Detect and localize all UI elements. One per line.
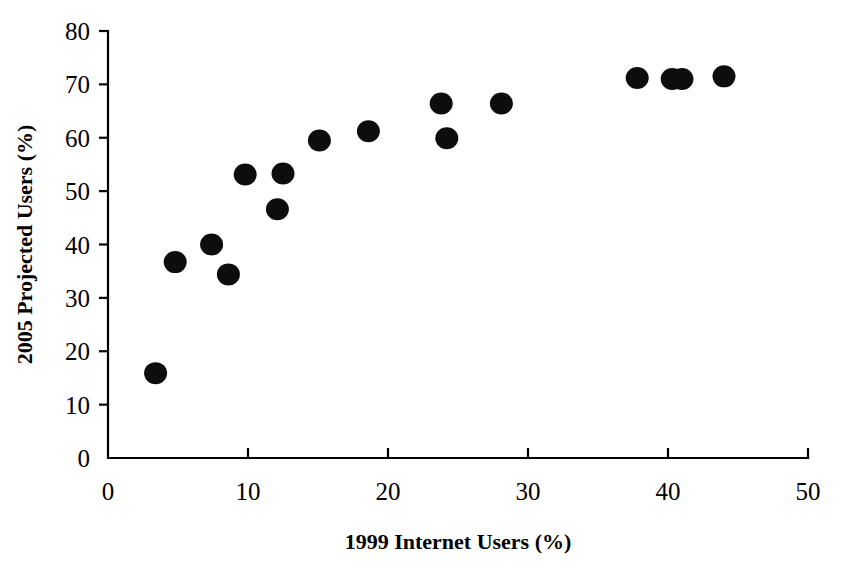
scatter-chart: 01020304050607080010203040501999 Interne… <box>0 0 853 570</box>
data-point <box>713 65 736 87</box>
x-tick-label: 20 <box>376 478 401 505</box>
y-tick-label: 0 <box>78 445 91 472</box>
x-tick-label: 0 <box>102 478 115 505</box>
data-point <box>266 198 289 220</box>
data-point <box>272 163 295 185</box>
data-point <box>308 129 331 151</box>
data-point <box>626 67 649 89</box>
y-tick-label: 50 <box>65 178 90 205</box>
y-tick-label: 80 <box>65 18 90 45</box>
data-point <box>144 362 167 384</box>
data-point <box>200 234 223 256</box>
y-axis-title: 2005 Projected Users (%) <box>12 125 37 365</box>
plot-area: 01020304050607080010203040501999 Interne… <box>0 0 853 570</box>
y-tick-label: 20 <box>65 338 90 365</box>
y-tick-label: 60 <box>65 125 90 152</box>
x-axis-title: 1999 Internet Users (%) <box>345 529 572 554</box>
x-tick-label: 50 <box>796 478 821 505</box>
data-point <box>234 164 257 186</box>
y-tick-label: 10 <box>65 392 90 419</box>
x-tick-label: 10 <box>236 478 261 505</box>
data-point <box>430 93 453 115</box>
y-tick-label: 40 <box>65 232 90 259</box>
data-point <box>357 120 380 142</box>
data-point <box>164 251 187 273</box>
data-point <box>490 93 513 115</box>
data-point <box>435 127 458 149</box>
y-tick-label: 70 <box>65 71 90 98</box>
data-point <box>671 68 694 90</box>
x-tick-label: 40 <box>656 478 681 505</box>
x-tick-label: 30 <box>516 478 541 505</box>
y-tick-label: 30 <box>65 285 90 312</box>
data-point <box>217 263 240 285</box>
